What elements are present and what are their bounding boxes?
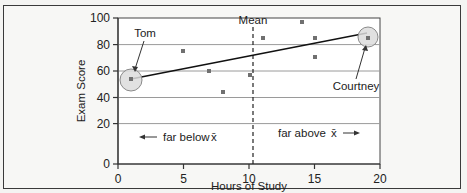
data-point (181, 49, 185, 53)
svg-text:5: 5 (180, 172, 187, 186)
svg-text:0: 0 (115, 172, 122, 186)
data-point (207, 69, 211, 73)
mean-label: Mean (239, 14, 268, 26)
tom-label: Tom (134, 27, 156, 39)
svg-text:60: 60 (97, 64, 111, 78)
scatter-chart: 100 80 60 40 20 0 0 5 10 15 20 Hours of … (0, 0, 467, 193)
svg-text:0: 0 (103, 157, 110, 171)
y-axis-label: Exam Score (75, 60, 87, 123)
data-point (129, 77, 133, 81)
svg-text:far above: far above (278, 127, 326, 139)
svg-text:40: 40 (97, 91, 111, 105)
xbar-symbol: x̄ (331, 127, 337, 139)
courtney-label: Courtney (333, 80, 380, 92)
svg-text:far below: far below (163, 131, 210, 143)
data-point (300, 20, 304, 24)
data-point (248, 73, 252, 77)
data-point (366, 36, 370, 40)
svg-text:20: 20 (373, 172, 387, 186)
svg-text:15: 15 (308, 172, 322, 186)
data-point (313, 36, 317, 40)
data-point (313, 55, 317, 59)
svg-text:20: 20 (97, 117, 111, 131)
data-point (221, 90, 225, 94)
data-point (261, 36, 265, 40)
svg-text:100: 100 (90, 11, 110, 25)
x-axis-label: Hours of Study (211, 180, 287, 192)
y-tick-labels: 100 80 60 40 20 0 (90, 11, 110, 171)
svg-text:80: 80 (97, 38, 111, 52)
xbar-symbol: x̄ (211, 131, 217, 143)
